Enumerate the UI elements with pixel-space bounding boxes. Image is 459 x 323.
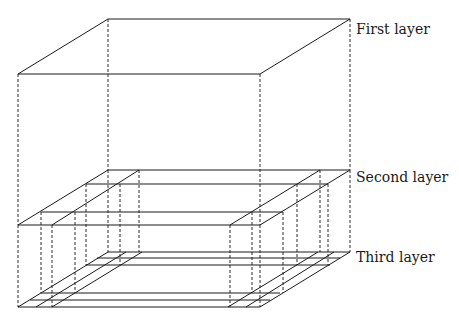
- projection-lines-lower: [18, 170, 350, 307]
- second-layer-shape: [18, 170, 350, 225]
- third-layer-label: Third layer: [356, 250, 435, 264]
- second-layer-label: Second layer: [356, 170, 448, 184]
- first-layer-label: First layer: [356, 22, 430, 36]
- first-layer-shape: [18, 19, 350, 74]
- layer-diagram: [0, 0, 459, 323]
- third-layer-shape: [18, 252, 350, 307]
